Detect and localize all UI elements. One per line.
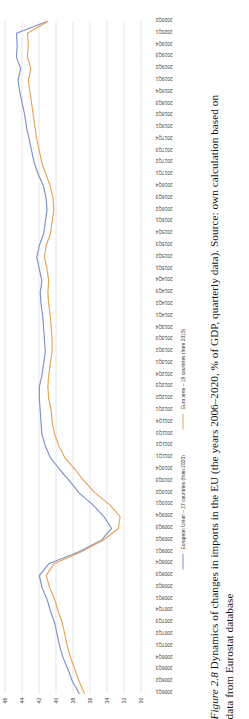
legend-label: Euro area – 19 countries (from 2015)	[180, 328, 185, 408]
x-axis-tick-label: 2017Q2	[155, 157, 172, 162]
x-axis-tick-label: 2013Q3	[155, 334, 172, 339]
series-line-1	[16, 21, 111, 693]
x-axis-tick-label: 2017Q4	[155, 134, 172, 139]
x-axis-tick-label: 2014Q3	[155, 287, 172, 292]
x-axis-tick-label: 2019Q3	[155, 51, 172, 56]
figure-page: 303234363840424446 2006Q12006Q22006Q3200…	[0, 0, 249, 719]
x-axis-tick-label: 2010Q3	[155, 476, 172, 481]
x-axis-tick-label: 2009Q1	[155, 547, 172, 552]
chart-lines	[4, 21, 140, 693]
x-axis-tick-label: 2010Q4	[155, 464, 172, 469]
x-axis-tick-label: 2013Q2	[155, 346, 172, 351]
x-axis-tick-label: 2019Q2	[155, 63, 172, 68]
x-axis-tick-label: 2006Q3	[155, 664, 172, 669]
x-axis-tick-label: 2008Q4	[155, 558, 172, 563]
x-axis-tick-label: 2007Q1	[155, 641, 172, 646]
x-axis-tick-label: 2014Q1	[155, 311, 172, 316]
x-axis-tick-label: 2015Q3	[155, 240, 172, 245]
x-axis-tick-label: 2010Q2	[155, 488, 172, 493]
x-axis-tick-label: 2015Q4	[155, 228, 172, 233]
y-axis-tick-label: 36	[86, 697, 92, 719]
x-axis-tick-label: 2012Q2	[155, 393, 172, 398]
y-axis-tick-label: 32	[120, 697, 126, 719]
x-axis-tick-label: 2008Q1	[155, 594, 172, 599]
x-axis-tick-label: 2017Q3	[155, 146, 172, 151]
x-axis-tick-label: 2015Q1	[155, 264, 172, 269]
chart-legend: European Union – 27 countries (from 2020…	[180, 328, 185, 569]
plot-area: 303234363840424446	[4, 21, 140, 693]
figure-container: 303234363840424446 2006Q12006Q22006Q3200…	[0, 0, 249, 719]
x-axis-tick-label: 2014Q2	[155, 299, 172, 304]
x-axis-tick-label: 2016Q2	[155, 205, 172, 210]
series-line-2	[27, 21, 120, 693]
figure-caption-text-2: data from Eurostat database	[221, 3, 236, 719]
x-axis-tick-label: 2006Q4	[155, 653, 172, 658]
x-axis-tick-label: 2012Q4	[155, 370, 172, 375]
x-axis-tick-label: 2008Q3	[155, 570, 172, 575]
x-axis-tick-label: 2016Q3	[155, 193, 172, 198]
x-axis-tick-label: 2012Q3	[155, 381, 172, 386]
x-axis-tick-label: 2007Q2	[155, 629, 172, 634]
x-axis-tick-label: 2018Q3	[155, 99, 172, 104]
y-axis-tick-label: 34	[103, 697, 109, 719]
legend-label: European Union – 27 countries (from 2020…	[180, 455, 185, 549]
x-axis-tick-label: 2008Q2	[155, 582, 172, 587]
x-axis-tick-label: 2013Q4	[155, 323, 172, 328]
x-axis-tick-label: 2007Q4	[155, 605, 172, 610]
figure-caption-text: Dynamics of changes in imports in the EU…	[207, 94, 219, 668]
x-axis-tick-label: 2012Q1	[155, 405, 172, 410]
x-axis-tick-label: 2019Q1	[155, 75, 172, 80]
legend-color-swatch	[182, 413, 184, 429]
x-axis-tick-label: 2017Q1	[155, 169, 172, 174]
x-axis-tick-label: 2016Q1	[155, 216, 172, 221]
x-axis-tick-label: 2018Q2	[155, 110, 172, 115]
y-axis-tick-label: 44	[18, 697, 24, 719]
x-axis-tick-label: 2019Q4	[155, 40, 172, 45]
x-axis-tick-label: 2018Q1	[155, 122, 172, 127]
x-axis-labels: 2006Q12006Q22006Q32006Q42007Q12007Q22007…	[142, 21, 172, 693]
x-axis-tick-label: 2016Q4	[155, 181, 172, 186]
legend-eu27: European Union – 27 countries (from 2020…	[180, 455, 185, 569]
x-axis-tick-label: 2011Q2	[155, 440, 172, 445]
y-axis-tick-label: 46	[1, 697, 7, 719]
y-axis-tick-label: 42	[35, 697, 41, 719]
figure-number: Figure 2.8	[207, 672, 219, 719]
figure-caption: Figure 2.8 Dynamics of changes in import…	[206, 3, 236, 719]
x-axis-tick-label: 2011Q3	[155, 429, 172, 434]
x-axis-tick-label: 2007Q3	[155, 617, 172, 622]
legend-color-swatch	[182, 553, 184, 569]
x-axis-tick-label: 2009Q2	[155, 535, 172, 540]
line-chart: 303234363840424446 2006Q12006Q22006Q3200…	[0, 0, 172, 719]
x-axis-tick-label: 2014Q4	[155, 275, 172, 280]
x-axis-tick-label: 2011Q1	[155, 452, 172, 457]
x-axis-tick-label: 2009Q3	[155, 523, 172, 528]
x-axis-tick-label: 2020Q1	[155, 28, 172, 33]
x-axis-tick-label: 2006Q2	[155, 676, 172, 681]
x-axis-tick-label: 2010Q1	[155, 499, 172, 504]
y-axis-tick-label: 38	[69, 697, 75, 719]
y-axis-tick-label: 40	[52, 697, 58, 719]
y-axis-tick-label: 30	[137, 697, 143, 719]
x-axis-tick-label: 2013Q1	[155, 358, 172, 363]
x-axis-tick-label: 2009Q4	[155, 511, 172, 516]
x-axis-tick-label: 2020Q2	[155, 16, 172, 21]
x-axis-tick-label: 2006Q1	[155, 688, 172, 693]
x-axis-tick-label: 2015Q2	[155, 252, 172, 257]
legend-ea19: Euro area – 19 countries (from 2015)	[180, 328, 185, 428]
x-axis-tick-label: 2011Q4	[155, 417, 172, 422]
x-axis-tick-label: 2018Q4	[155, 87, 172, 92]
